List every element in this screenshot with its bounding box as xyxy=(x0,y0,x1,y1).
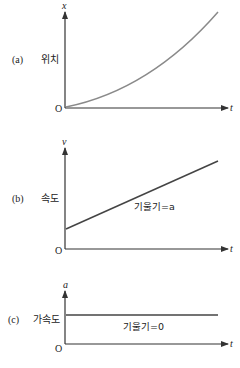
y-axis-label: a xyxy=(63,279,68,290)
y-axis-label: v xyxy=(62,136,67,147)
panel-b-velocity: v t O (b) 속도 기울기=a xyxy=(12,136,233,256)
velocity-line xyxy=(66,161,218,229)
origin-label: O xyxy=(55,343,62,354)
quantity-label: 속도 xyxy=(41,193,59,204)
panel-c-acceleration: a t O (c) 가속도 기울기=0 xyxy=(8,279,233,354)
x-axis-label: t xyxy=(230,102,233,113)
quantity-label: 위치 xyxy=(41,53,59,65)
position-curve xyxy=(66,12,218,107)
x-axis-label: t xyxy=(230,243,233,254)
kinematics-diagram: x t O (a) 위치 v t O (b) 속도 기울기=a a t O (c… xyxy=(0,0,240,368)
y-axis-label: x xyxy=(61,0,67,11)
panel-label: (a) xyxy=(12,54,23,66)
panel-a-position: x t O (a) 위치 xyxy=(12,0,233,114)
quantity-label: 가속도 xyxy=(33,314,60,325)
origin-label: O xyxy=(55,245,62,256)
slope-annotation: 기울기=a xyxy=(134,201,175,212)
x-axis-label: t xyxy=(230,338,233,349)
panel-label: (b) xyxy=(12,193,24,205)
origin-label: O xyxy=(55,103,62,114)
panel-label: (c) xyxy=(8,314,19,326)
slope-annotation: 기울기=0 xyxy=(123,321,164,332)
